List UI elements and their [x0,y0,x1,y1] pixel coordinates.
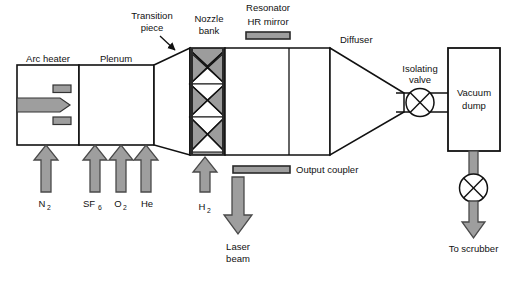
gas-he-base: He [141,198,153,209]
resonator-hr-mirror-bar [246,32,290,39]
label-vacuum-dump-line2: dump [462,100,486,111]
arc-heater-center-electrode [17,98,70,112]
label-diffuser: Diffuser [340,34,373,45]
label-nozzle-bank-line2: bank [199,25,220,36]
transition-piece-body [154,48,190,155]
label-transition-piece-line2: piece [141,22,164,33]
gas-h2-base: H [199,201,206,212]
label-arc-heater: Arc heater [26,53,70,64]
plenum-body [79,65,154,145]
label-nozzle-bank-line1: Nozzle [194,13,223,24]
gas-n2-sub: 2 [47,204,51,211]
nozzle-bank-assembly [190,48,225,155]
output-coupler-bar [233,166,290,173]
gas-o2-base: O [114,198,121,209]
label-laser-beam-line2: beam [226,253,250,264]
label-vacuum-dump-line1: Vacuum [457,87,491,98]
diagram-canvas: Arc heater Plenum Transition piece Nozzl… [0,0,511,285]
isolating-valve-symbol [406,89,434,117]
resonator-cavity [225,48,330,155]
label-isolating-valve-line2: valve [409,74,431,85]
scrubber-pipe-upper [469,151,478,175]
gas-dynamic-laser-diagram: Arc heater Plenum Transition piece Nozzl… [0,0,511,285]
arc-heater-lower-electrode [53,117,71,125]
label-output-coupler: Output coupler [296,164,358,175]
nozzle-left-rail [190,48,193,155]
gas-n2-base: N [39,198,46,209]
label-resonator-line2: HR mirror [247,16,288,27]
label-transition-piece-line1: Transition [131,10,172,21]
label-to-scrubber: To scrubber [449,243,499,254]
label-isolating-valve-line1: Isolating [402,63,437,74]
arc-heater-assembly [17,65,79,145]
gas-o2-sub: 2 [123,204,127,211]
label-laser-beam-line1: Laser [226,241,250,252]
gas-sf6-base: SF [83,198,95,209]
label-plenum: Plenum [100,53,132,64]
gas-label-he: He [141,198,153,209]
gas-h2-sub: 2 [207,207,211,214]
gas-sf6-sub: 6 [98,204,102,211]
label-resonator-line1: Resonator [246,2,290,13]
arc-heater-upper-electrode [53,85,71,93]
